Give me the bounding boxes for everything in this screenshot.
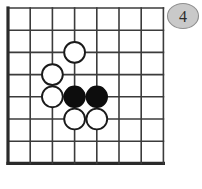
white-stone-c6[interactable] [64,109,85,130]
go-board-diagram: 4 [0,0,202,189]
go-board-canvas: 4 [0,0,202,189]
white-stone-d6[interactable] [86,109,107,130]
white-stone-c3[interactable] [64,42,85,63]
black-stone-c5[interactable] [64,86,85,107]
white-stone-b4[interactable] [42,64,63,85]
black-stone-d5[interactable] [86,86,107,107]
board-grid [8,8,163,163]
white-stone-b5[interactable] [42,86,63,107]
diagram-number-badge: 4 [168,4,199,29]
badge-label: 4 [179,8,187,25]
